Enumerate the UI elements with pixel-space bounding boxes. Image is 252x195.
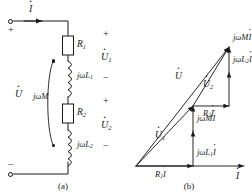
source-voltage-label-u-text: U	[15, 89, 22, 99]
phasor-label-jwmi-upper-base: jωM	[233, 32, 248, 42]
phasor-label-r1i-suffix: I	[163, 170, 166, 179]
phasor-label-u-total-base: U	[175, 72, 182, 82]
source-plus-sign: +	[8, 25, 14, 35]
phasor-label-u2-sub: 2	[210, 83, 213, 90]
resistor-r1-label-sub: 1	[83, 43, 86, 50]
wire-top	[14, 21, 69, 36]
phasor-label-u-total: U	[175, 72, 182, 82]
inductor-l2-label: jωL2	[77, 140, 93, 150]
mutual-inductance-label-text: jωM	[33, 91, 48, 101]
source-minus-sign: −	[8, 160, 14, 170]
inductor-l1-label-base: jωL	[77, 70, 90, 80]
phasor-label-u1-sub: 1	[162, 134, 165, 141]
phasor-label-jwl1i-suffix: I	[213, 148, 216, 157]
phasor-label-u1: U1	[155, 131, 165, 141]
u1-plus-sign: +	[103, 29, 109, 39]
figure-container: + − I U jωM R1 jωL1 R2 jωL2 + U1	[0, 0, 252, 195]
branch-voltage-u2-base: U	[101, 120, 108, 130]
coupling-dot-l2	[52, 144, 56, 148]
subfigure-a-circuit: + − I U jωM R1 jωL1 R2 jωL2 + U1	[0, 0, 126, 195]
wire-bottom	[14, 162, 69, 174]
inductor-l2-label-base: jωL	[77, 139, 90, 149]
terminal-top[interactable]	[8, 19, 13, 24]
phasor-label-r2i: R2I	[203, 109, 214, 119]
resistor-r1-body	[63, 36, 74, 55]
branch-voltage-u2-sub: 2	[108, 124, 111, 131]
phasor-label-u1-base: U	[155, 131, 162, 141]
caption-a: (a)	[0, 181, 126, 191]
phasor-label-jwmi-upper-suffix: I	[248, 33, 251, 42]
resistor-r2-body	[63, 104, 74, 123]
inductor-l1-label: jωL1	[77, 71, 93, 81]
phasor-diagram-svg	[126, 0, 252, 195]
phasor-u2	[193, 47, 229, 106]
phasor-label-jwl1i: jωL1I	[197, 148, 216, 158]
branch-voltage-u1-sub: 1	[108, 56, 111, 63]
phasor-label-jwl2i-base: jωL	[233, 54, 246, 64]
phasor-label-u2-base: U	[203, 80, 210, 90]
branch-voltage-u2-label: U2	[101, 120, 112, 131]
resistor-r2-label: R2	[77, 108, 86, 118]
inductor-l1-label-sub: 1	[90, 74, 93, 80]
resistor-r2-label-sub: 2	[83, 111, 86, 118]
subfigure-b-phasor: R1I jωL1I jωMI U1 R2I jωL2I jωMI U2 U I	[126, 0, 252, 195]
branch-voltage-u1-label: U1	[101, 52, 112, 63]
phasor-label-jwl2i-suffix: I	[249, 55, 252, 64]
phasor-label-u2: U2	[203, 80, 213, 90]
caption-b: (b)	[126, 181, 252, 191]
u2-minus-sign: −	[103, 141, 109, 151]
phasor-label-r1i: R1I	[155, 170, 166, 180]
resistor-r1-label: R1	[77, 40, 86, 50]
u1-minus-sign: −	[103, 73, 109, 83]
current-label-i-text: I	[29, 4, 32, 14]
phasor-label-jwl2i: jωL2I	[233, 55, 252, 65]
inductor-l1-body	[68, 61, 72, 97]
coupling-dot-l1	[52, 59, 56, 63]
current-label-i: I	[29, 4, 32, 14]
terminal-bottom[interactable]	[8, 172, 13, 177]
phasor-label-jwmi-upper: jωMI	[233, 33, 251, 42]
inductor-l2-label-sub: 2	[90, 143, 93, 149]
phasor-label-jwl1i-base: jωL	[197, 147, 210, 157]
mutual-inductance-label: jωM	[33, 92, 48, 101]
branch-voltage-u1-base: U	[101, 52, 108, 62]
mutual-coupling-arc	[48, 62, 53, 146]
source-voltage-label-u: U	[15, 89, 22, 99]
phasor-label-r2i-suffix: I	[211, 109, 214, 118]
u2-plus-sign: +	[103, 96, 109, 106]
inductor-l2-body	[68, 130, 72, 166]
